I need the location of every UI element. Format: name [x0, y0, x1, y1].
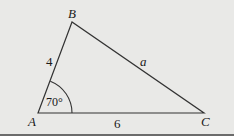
side-label-bc: a [140, 54, 147, 69]
side-label-ab: 4 [46, 54, 53, 69]
side-label-ac: 6 [114, 116, 121, 131]
angle-label-a: 70° [46, 95, 63, 109]
triangle-abc [38, 22, 204, 113]
triangle-diagram: B A C 4 a 6 70° [0, 0, 234, 138]
vertex-label-b: B [68, 6, 76, 21]
triangle-figure: B A C 4 a 6 70° [0, 0, 234, 138]
vertex-label-c: C [201, 114, 210, 129]
vertex-label-a: A [27, 114, 36, 129]
